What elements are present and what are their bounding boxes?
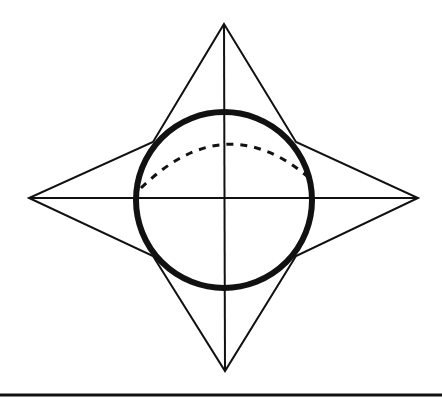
star-circle-diagram bbox=[0, 0, 442, 400]
